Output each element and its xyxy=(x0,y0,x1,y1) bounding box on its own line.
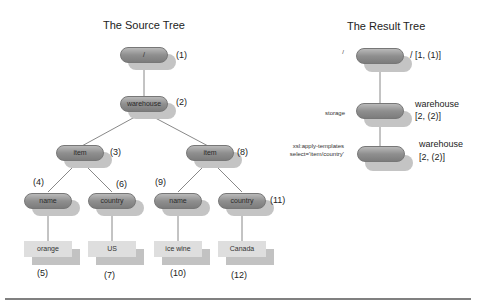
node-index: (8) xyxy=(237,147,248,157)
text-node-orange: orange xyxy=(24,241,72,257)
node-index: (3) xyxy=(110,147,121,157)
node-index: (11) xyxy=(270,195,285,205)
node-index: (5) xyxy=(37,268,48,278)
result-root-right-label: / [1, (1)] xyxy=(410,50,441,60)
result-storage-right-label-2: [2, (2)] xyxy=(415,111,441,121)
node-index: (12) xyxy=(231,270,247,280)
node-index: (6) xyxy=(116,179,127,189)
result-storage-right-label-1: warehouse xyxy=(415,99,459,109)
text-node-us: US xyxy=(88,241,136,257)
text-node-canada: Canada xyxy=(218,241,266,257)
node-index: (4) xyxy=(33,177,44,187)
result-apply-right-label-1: warehouse xyxy=(419,139,463,149)
node-index: (9) xyxy=(155,177,166,187)
result-storage-left-label: storage xyxy=(300,110,345,116)
text-node-ice-wine: ice wine xyxy=(154,241,202,257)
node-index: (2) xyxy=(176,97,187,107)
result-apply-right-label-2: [2, (2)] xyxy=(419,152,445,162)
result-root-left-label: / xyxy=(330,49,344,55)
result-apply-left-label-1: xsl:apply-templates xyxy=(270,143,344,149)
result-apply-left-label-2: select='item/country' xyxy=(270,151,344,157)
bottom-divider xyxy=(5,298,471,300)
node-index: (7) xyxy=(104,270,115,280)
node-index: (10) xyxy=(170,268,186,278)
node-index: (1) xyxy=(176,50,187,60)
